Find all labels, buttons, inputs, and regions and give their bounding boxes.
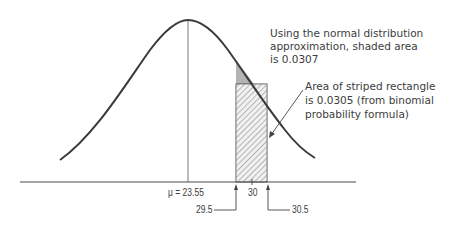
normal-approximation-diagram: Using the normal distribution approximat…: [0, 0, 449, 227]
mean-label: μ = 23.55: [168, 187, 204, 198]
striped-annotation-line2: is 0.0305 (from binomial: [305, 94, 434, 107]
striped-annotation-line3: probability formula): [305, 108, 409, 121]
shaded-annotation-line2: approximation, shaded area: [270, 40, 418, 53]
striped-annotation-line1: Area of striped rectangle: [305, 80, 435, 93]
lower-bound-arrow: [214, 184, 238, 210]
upper-bound-label: 30.5: [292, 204, 309, 215]
lower-bound-label: 29.5: [196, 204, 213, 215]
shaded-annotation-line1: Using the normal distribution: [270, 27, 423, 40]
shaded-annotation-line3: is 0.0307: [270, 53, 318, 66]
center-label: 30: [248, 187, 257, 198]
upper-bound-arrow: [266, 184, 290, 210]
